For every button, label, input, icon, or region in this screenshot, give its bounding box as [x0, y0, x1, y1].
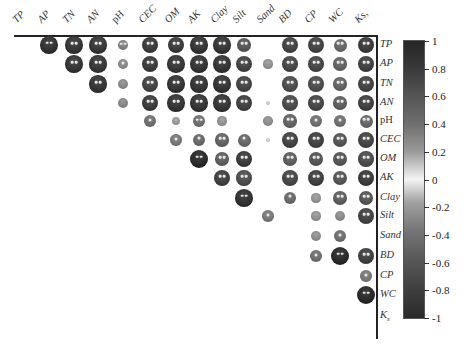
cell-ap-wc: [333, 57, 346, 70]
cell-ak-cp: [308, 170, 324, 186]
row-label-tn: TN: [380, 77, 393, 88]
significance-marker: [287, 81, 294, 84]
cell-tn-silt: [236, 76, 252, 92]
cell-an-clay: [213, 94, 230, 111]
colorbar-tick-label: -1: [432, 312, 441, 324]
cell-ap-an: [89, 55, 106, 72]
significance-marker: [219, 137, 226, 140]
cell-ph-cec: [144, 115, 156, 127]
cell-tn-ak: [190, 75, 207, 92]
cell-an-bd: [282, 95, 297, 110]
significance-marker: [196, 100, 203, 103]
cell-cec-bd: [282, 132, 298, 148]
cell-tp-ap: [40, 36, 58, 54]
cell-tp-clay: [213, 36, 230, 53]
row-label-cec: CEC: [380, 133, 400, 144]
cell-ph-clay: [217, 116, 226, 125]
significance-marker: [147, 42, 154, 45]
significance-marker: [173, 61, 180, 64]
colorbar-tick: [424, 152, 429, 153]
cell-bd-ks: [358, 248, 374, 264]
significance-marker: [363, 253, 370, 256]
column-label-tn: TN: [60, 8, 77, 25]
significance-marker: [337, 253, 344, 256]
cell-ap-cec: [142, 56, 159, 73]
significance-marker: [363, 213, 370, 216]
significance-marker: [313, 156, 320, 159]
significance-marker: [120, 42, 127, 45]
cell-cec-wc: [333, 133, 348, 148]
significance-marker: [241, 175, 248, 178]
significance-marker: [243, 137, 246, 140]
significance-marker: [337, 42, 344, 45]
cell-wc-ks: [357, 286, 375, 304]
colorbar-tick: [424, 235, 429, 236]
significance-marker: [267, 213, 270, 216]
cell-om-ks: [358, 151, 373, 166]
cell-tp-tn: [65, 36, 82, 53]
cell-sand-cp: [311, 231, 321, 241]
cell-ph-sand: [263, 116, 273, 126]
significance-marker: [241, 156, 248, 159]
cell-clay-cp: [311, 193, 320, 202]
significance-marker: [241, 42, 248, 45]
significance-marker: [241, 61, 248, 64]
significance-marker: [313, 42, 320, 45]
row-label-silt: Silt: [380, 209, 394, 220]
cell-clay-wc: [333, 191, 347, 205]
significance-marker: [363, 42, 370, 45]
cell-ap-ak: [190, 55, 207, 72]
significance-marker: [337, 137, 344, 140]
significance-marker: [287, 100, 294, 103]
column-label-cec: CEC: [136, 3, 158, 25]
colorbar-tick-label: 1: [432, 35, 438, 47]
significance-marker: [287, 42, 294, 45]
cell-silt-wc: [335, 211, 345, 221]
significance-marker: [71, 61, 78, 64]
cell-tn-an: [89, 75, 106, 92]
cell-tn-ks: [358, 76, 374, 92]
cell-ak-clay: [214, 170, 230, 186]
significance-marker: [339, 118, 342, 121]
significance-marker: [95, 42, 102, 45]
significance-marker: [363, 61, 370, 64]
right-axis-line: [376, 35, 378, 339]
column-label-wc: WC: [326, 6, 345, 25]
significance-marker: [339, 233, 342, 236]
cell-tp-wc: [334, 39, 347, 52]
cell-om-bd: [283, 152, 297, 166]
significance-marker: [196, 118, 203, 121]
row-label-sand: Sand: [380, 229, 401, 240]
column-label-sand: Sand: [254, 2, 277, 25]
cell-ap-clay: [213, 55, 230, 72]
significance-marker: [315, 253, 318, 256]
significance-marker: [147, 100, 154, 103]
significance-marker: [71, 42, 78, 45]
significance-marker: [147, 61, 154, 64]
significance-marker: [287, 118, 294, 121]
column-label-an: AN: [84, 8, 101, 25]
colorbar-tick: [424, 96, 429, 97]
significance-marker: [337, 175, 344, 178]
cell-ph-ak: [193, 115, 205, 127]
significance-marker: [313, 81, 320, 84]
cell-ph-wc: [334, 115, 346, 127]
column-label-bd: BD: [276, 7, 294, 25]
row-label-cp: CP: [380, 269, 393, 280]
significance-marker: [196, 81, 203, 84]
cell-an-ks: [358, 95, 374, 111]
cell-ph-ks: [360, 115, 373, 128]
colorbar-tick-label: 0.6: [432, 90, 446, 102]
cell-an-ph: [118, 98, 128, 108]
cell-clay-silt: [235, 189, 253, 207]
significance-marker: [149, 118, 152, 121]
cell-tp-silt: [237, 38, 252, 53]
cell-tn-ph: [118, 79, 128, 89]
cell-om-ak: [190, 150, 208, 168]
cell-an-sand: [266, 101, 271, 106]
significance-marker: [365, 273, 368, 276]
significance-marker: [95, 81, 102, 84]
cell-an-cp: [308, 95, 324, 111]
colorbar-tick: [424, 263, 429, 264]
significance-marker: [363, 100, 370, 103]
